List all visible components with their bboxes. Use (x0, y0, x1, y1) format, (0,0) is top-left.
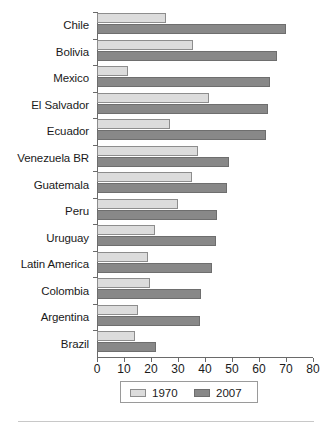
legend-label-2007: 2007 (216, 387, 242, 399)
category-label: Ecuador (0, 125, 89, 137)
x-axis-tick-label: 50 (221, 363, 243, 376)
category-label: Peru (0, 205, 89, 217)
category-label: Colombia (0, 285, 89, 297)
bar-2007 (97, 236, 216, 246)
category-label: Bolivia (0, 46, 89, 58)
bar-2007 (97, 289, 201, 299)
legend-label-1970: 1970 (152, 387, 178, 399)
bar-2007 (97, 51, 277, 61)
legend-item-1970: 1970 (130, 386, 178, 399)
x-axis-tick-label: 80 (302, 363, 324, 376)
footer-divider (18, 421, 314, 422)
bar-1970 (97, 305, 138, 315)
legend-swatch-2007 (194, 389, 210, 397)
bar-1970 (97, 331, 135, 341)
bar-1970 (97, 40, 193, 50)
bar-1970 (97, 278, 150, 288)
bar-2007 (97, 183, 227, 193)
bar-2007 (97, 316, 200, 326)
category-label: Chile (0, 19, 89, 31)
bar-1970 (97, 146, 198, 156)
x-axis-tick-label: 20 (140, 363, 162, 376)
bar-2007 (97, 263, 212, 273)
bar-2007 (97, 104, 268, 114)
bar-1970 (97, 225, 155, 235)
category-label: Mexico (0, 72, 89, 84)
category-label: Latin America (0, 258, 89, 270)
x-axis-tick-label: 60 (248, 363, 270, 376)
plot-area: ChileBoliviaMexicoEl SalvadorEcuadorVene… (0, 8, 331, 356)
x-axis-tick-label: 30 (167, 363, 189, 376)
category-label: El Salvador (0, 99, 89, 111)
bar-1970 (97, 172, 192, 182)
bar-1970 (97, 13, 166, 23)
category-label: Uruguay (0, 232, 89, 244)
bar-1970 (97, 66, 128, 76)
bar-2007 (97, 130, 266, 140)
bar-2007 (97, 157, 229, 167)
category-label: Brazil (0, 338, 89, 350)
x-axis-tick-label: 70 (275, 363, 297, 376)
bar-1970 (97, 93, 209, 103)
bar-2007 (97, 24, 286, 34)
bar-2007 (97, 77, 270, 87)
bar-2007 (97, 210, 217, 220)
x-axis-tick-label: 0 (86, 363, 108, 376)
legend-swatch-1970 (130, 389, 146, 397)
category-label: Guatemala (0, 179, 89, 191)
bar-chart: ChileBoliviaMexicoEl SalvadorEcuadorVene… (0, 0, 331, 432)
category-label: Argentina (0, 311, 89, 323)
category-label: Venezuela BR (0, 152, 89, 164)
bar-2007 (97, 342, 156, 352)
x-axis-tick-label: 40 (194, 363, 216, 376)
category-axis-labels: ChileBoliviaMexicoEl SalvadorEcuadorVene… (0, 8, 92, 352)
x-axis-tick-label: 10 (113, 363, 135, 376)
legend-item-2007: 2007 (194, 386, 242, 399)
bars-container (97, 8, 312, 352)
chart-legend: 1970 2007 (120, 381, 258, 403)
bar-1970 (97, 119, 170, 129)
bar-1970 (97, 252, 148, 262)
x-axis-ticks: 01020304050607080 (97, 358, 313, 363)
bar-1970 (97, 199, 178, 209)
